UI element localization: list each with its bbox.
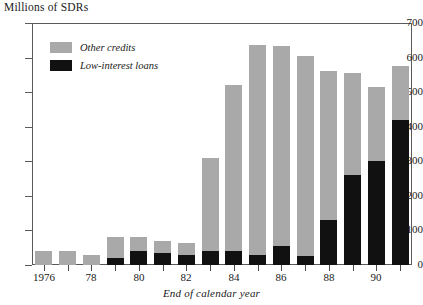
x-axis-tick-label: 78 xyxy=(86,272,97,283)
x-axis-tick xyxy=(400,265,401,271)
bar-segment-low-interest-loans xyxy=(130,251,147,265)
x-axis-tick-label: 1976 xyxy=(33,272,55,283)
bar-1976 xyxy=(35,251,52,265)
other-credits-swatch-icon xyxy=(50,42,72,53)
bar-segment-other-credits xyxy=(320,71,337,220)
bar-1991 xyxy=(392,66,409,265)
bar-segment-other-credits xyxy=(130,237,147,251)
y-axis-tick xyxy=(25,265,32,266)
bar-1977 xyxy=(59,251,76,265)
bar-segment-low-interest-loans xyxy=(178,255,195,265)
bar-segment-other-credits xyxy=(202,158,219,251)
bar-segment-other-credits xyxy=(83,255,100,265)
bar-segment-other-credits xyxy=(59,251,76,265)
bar-segment-other-credits xyxy=(249,45,266,254)
y-axis-tick xyxy=(25,161,32,162)
x-axis-tick xyxy=(258,265,259,271)
bar-segment-low-interest-loans xyxy=(154,253,171,265)
bar-segment-other-credits xyxy=(35,251,52,265)
bar-segment-other-credits xyxy=(154,241,171,253)
x-axis-tick xyxy=(305,265,306,271)
bar-1979 xyxy=(107,237,124,265)
bar-segment-other-credits xyxy=(368,87,385,161)
bar-1990 xyxy=(368,87,385,265)
bar-segment-low-interest-loans xyxy=(202,251,219,265)
low-interest-loans-swatch-icon xyxy=(50,60,72,71)
y-axis-title: Millions of SDRs xyxy=(4,1,88,13)
legend-item-low-interest-loans: Low-interest loans xyxy=(50,59,158,72)
y-axis-tick xyxy=(25,23,32,24)
bar-1986 xyxy=(273,45,290,265)
x-axis-tick-label: 84 xyxy=(229,272,240,283)
bar-1981 xyxy=(154,241,171,265)
bar-segment-other-credits xyxy=(344,73,361,175)
y-axis-tick xyxy=(25,230,32,231)
bar-segment-low-interest-loans xyxy=(249,255,266,265)
bar-segment-other-credits xyxy=(297,56,314,257)
bar-segment-other-credits xyxy=(273,46,290,247)
legend-label-low-interest-loans: Low-interest loans xyxy=(80,60,158,71)
bar-1985 xyxy=(249,45,266,265)
bar-segment-low-interest-loans xyxy=(225,251,242,265)
y-axis-tick xyxy=(25,58,32,59)
bar-segment-low-interest-loans xyxy=(368,161,385,265)
bar-1982 xyxy=(178,243,195,265)
bar-segment-low-interest-loans xyxy=(107,258,124,265)
x-axis-tick-label: 86 xyxy=(276,272,287,283)
x-axis-tick xyxy=(353,265,354,271)
bar-1984 xyxy=(225,85,242,265)
x-axis-tick-label: 82 xyxy=(181,272,192,283)
bar-1988 xyxy=(320,71,337,265)
bar-1983 xyxy=(202,158,219,265)
bar-segment-low-interest-loans xyxy=(344,175,361,265)
bar-segment-other-credits xyxy=(107,237,124,258)
x-axis-tick xyxy=(115,265,116,271)
bar-segment-other-credits xyxy=(392,66,409,120)
bar-1989 xyxy=(344,73,361,265)
bar-segment-low-interest-loans xyxy=(297,256,314,265)
x-axis-tick-label: 80 xyxy=(134,272,145,283)
bar-segment-other-credits xyxy=(225,85,242,251)
x-axis-tick xyxy=(163,265,164,271)
stacked-bar-chart: Millions of SDRs 0100200300400500600700 … xyxy=(0,0,423,305)
x-axis-tick xyxy=(210,265,211,271)
bar-1987 xyxy=(297,56,314,265)
bar-segment-other-credits xyxy=(178,243,195,255)
legend-label-other-credits: Other credits xyxy=(80,42,135,53)
x-axis-tick xyxy=(68,265,69,271)
bar-1980 xyxy=(130,237,147,265)
legend-item-other-credits: Other credits xyxy=(50,41,158,54)
bar-1978 xyxy=(83,255,100,265)
bar-segment-low-interest-loans xyxy=(320,220,337,265)
x-axis-title: End of calendar year xyxy=(0,287,423,299)
y-axis-tick xyxy=(25,196,32,197)
x-axis-tick-label: 90 xyxy=(371,272,382,283)
chart-legend: Other credits Low-interest loans xyxy=(50,41,158,77)
y-axis-tick xyxy=(25,127,32,128)
bar-segment-low-interest-loans xyxy=(273,246,290,265)
x-axis-tick-label: 88 xyxy=(324,272,335,283)
y-axis-tick xyxy=(25,92,32,93)
bar-segment-low-interest-loans xyxy=(392,120,409,265)
